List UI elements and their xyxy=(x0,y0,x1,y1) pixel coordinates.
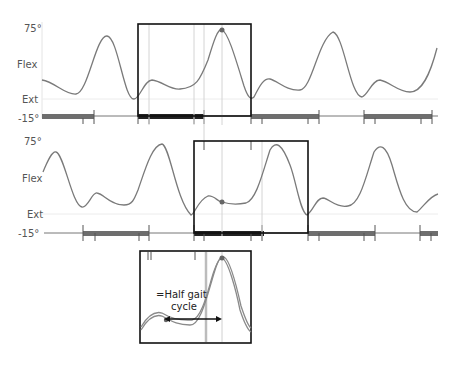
top-stance-bar xyxy=(364,114,432,119)
mid-guides xyxy=(222,140,262,236)
half-gait-label-line2: cycle xyxy=(171,301,197,312)
half-gait-label-line1: =Half gait xyxy=(156,289,207,300)
mid-knee-curve xyxy=(43,144,438,215)
mid-stance-bar xyxy=(308,231,375,236)
mid-minus15-label: -15° xyxy=(18,228,39,239)
top-peak-marker xyxy=(220,28,225,33)
mid-stance-bar xyxy=(420,231,438,236)
top-stance-bar xyxy=(251,114,319,119)
top-minus15-label: -15° xyxy=(18,113,39,124)
top-knee-curve xyxy=(42,30,437,99)
top-75-label: 75° xyxy=(24,23,42,34)
top-panel: 75° Flex Ext -15° xyxy=(17,22,438,140)
top-flex-label: Flex xyxy=(17,59,38,70)
mid-marker xyxy=(220,200,225,205)
mid-ext-label: Ext xyxy=(27,209,43,220)
mid-highlight-box xyxy=(194,141,308,233)
middle-panel: 75° Flex Ext -15° xyxy=(18,136,438,241)
mid-75-label: 75° xyxy=(24,136,42,147)
top-stance-bar xyxy=(42,114,94,119)
top-ext-label: Ext xyxy=(22,94,38,105)
inset-panel: =Half gait cycle xyxy=(140,251,251,343)
inset-peak-marker xyxy=(220,256,225,261)
mid-flex-label: Flex xyxy=(22,173,43,184)
gait-diagram: 75° Flex Ext -15° 75° xyxy=(0,0,456,367)
